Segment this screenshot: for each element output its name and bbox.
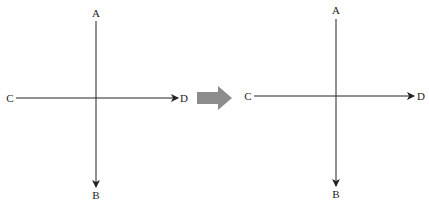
right-arrow-icon [197,86,232,110]
label-a: A [332,4,340,16]
label-c: C [6,92,13,104]
diagram-before: A B C D [6,7,188,201]
label-b: B [332,188,339,200]
label-b: B [92,189,99,201]
label-d: D [417,90,425,102]
label-c: C [244,90,251,102]
label-d: D [180,92,188,104]
diagram-after: A B C D [244,4,425,200]
diagram-canvas: A B C D A B C D [0,0,429,204]
label-a: A [92,7,100,19]
